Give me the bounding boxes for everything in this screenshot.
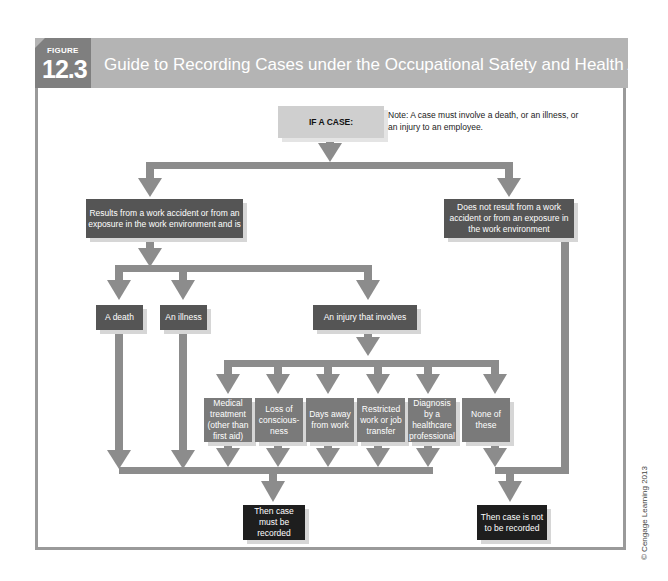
injury-type-loss-of-consciousness: Loss of conscious-ness: [255, 398, 303, 442]
injury-type-restricted-work: Restricted work or job transfer: [357, 398, 405, 442]
work-related-box: Results from a work accident or from an …: [86, 199, 243, 238]
start-box: IF A CASE:: [278, 106, 384, 138]
note-text: Note: A case must involve a death, or an…: [388, 109, 588, 133]
result-recorded-box: Then case must be recorded: [243, 505, 305, 540]
copyright-credit: © Cengage Learning 2013: [640, 466, 649, 560]
not-work-related-box: Does not result from a work accident or …: [444, 199, 574, 238]
illness-box: An illness: [160, 305, 207, 330]
arrow-down-icon: [318, 143, 342, 162]
injury-type-medical-treatment: Medical treatment (other than first aid): [204, 398, 252, 442]
result-not-recorded-box: Then case is not to be recorded: [477, 505, 547, 540]
injury-type-none: None of these: [462, 398, 510, 442]
injury-type-diagnosis: Diagnosis by a healthcare professional: [408, 398, 456, 442]
injury-box: An injury that involves: [313, 305, 417, 330]
injury-type-days-away: Days away from work: [306, 398, 354, 442]
flow-connectors: [0, 0, 668, 581]
death-box: A death: [96, 305, 143, 330]
